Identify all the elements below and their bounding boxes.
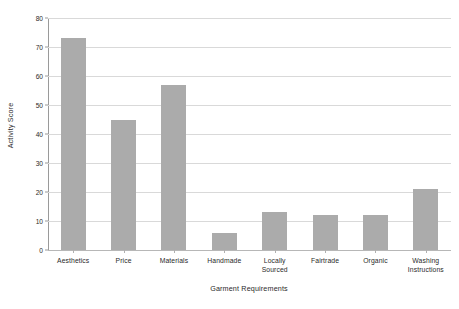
x-axis-tickmarks: [48, 250, 451, 254]
bar-chart-figure: Activity Score 01020304050607080 Aesthet…: [0, 0, 459, 309]
bar-fairtrade[interactable]: [313, 215, 338, 250]
x-tickmark-slot: [350, 250, 400, 254]
y-tick-label-50: 50: [36, 102, 43, 109]
x-tick-label-line: Instructions: [401, 265, 451, 274]
y-tick-label-20: 20: [36, 189, 43, 196]
x-tick-label-materials: Materials: [149, 256, 199, 274]
x-tick-label-line: Price: [116, 257, 132, 264]
x-tickmark-slot: [149, 250, 199, 254]
x-tickmark: [375, 250, 376, 253]
x-axis-tick-labels: AestheticsPriceMaterialsHandmadeLocallyS…: [48, 256, 451, 274]
bar-slot: [98, 18, 148, 250]
x-axis-title: Garment Requirements: [48, 284, 450, 293]
x-tick-label-line: Sourced: [250, 265, 300, 274]
x-tick-label-line: Fairtrade: [311, 257, 339, 264]
bar-washing-instructions[interactable]: [413, 189, 438, 250]
bar-aesthetics[interactable]: [61, 38, 86, 250]
y-axis-title-text: Activity Score: [7, 102, 16, 148]
bar-price[interactable]: [111, 120, 136, 251]
y-tick-label-60: 60: [36, 73, 43, 80]
x-tick-label-locally-sourced: LocallySourced: [250, 256, 300, 274]
x-tickmark-slot: [48, 250, 98, 254]
x-tick-label-organic: Organic: [350, 256, 400, 274]
x-tick-label-line: Locally: [264, 257, 286, 264]
bar-slot: [199, 18, 249, 250]
bar-slot: [401, 18, 451, 250]
y-tick-label-70: 70: [36, 44, 43, 51]
bar-handmade[interactable]: [212, 233, 237, 250]
x-tickmark: [325, 250, 326, 253]
y-axis-title: Activity Score: [0, 0, 22, 250]
x-tick-label-fairtrade: Fairtrade: [300, 256, 350, 274]
x-axis-title-text: Garment Requirements: [210, 284, 288, 293]
bar-slot: [48, 18, 98, 250]
x-tickmark: [224, 250, 225, 253]
bar-organic[interactable]: [363, 215, 388, 250]
x-tickmark: [73, 250, 74, 253]
x-tickmark-slot: [98, 250, 148, 254]
bar-slot: [149, 18, 199, 250]
x-tick-label-line: Materials: [160, 257, 188, 264]
x-tick-label-line: Washing: [412, 257, 439, 264]
x-tickmark: [275, 250, 276, 253]
y-tick-label-40: 40: [36, 131, 43, 138]
x-tickmark-slot: [401, 250, 451, 254]
x-tick-label-price: Price: [98, 256, 148, 274]
x-tickmark: [174, 250, 175, 253]
x-tick-label-line: Handmade: [207, 257, 241, 264]
y-tick-label-10: 10: [36, 218, 43, 225]
bar-slot: [250, 18, 300, 250]
y-tick-label-30: 30: [36, 160, 43, 167]
x-tick-label-line: Organic: [363, 257, 388, 264]
bar-slot: [350, 18, 400, 250]
bar-slot: [300, 18, 350, 250]
x-tick-label-handmade: Handmade: [199, 256, 249, 274]
x-tickmark-slot: [199, 250, 249, 254]
x-tickmark: [426, 250, 427, 253]
bar-materials[interactable]: [161, 85, 186, 250]
bar-locally-sourced[interactable]: [262, 212, 287, 250]
bars-group: [48, 18, 451, 250]
x-tick-label-aesthetics: Aesthetics: [48, 256, 98, 274]
x-tickmark-slot: [300, 250, 350, 254]
y-tick-label-0: 0: [39, 247, 43, 254]
x-tick-label-line: Aesthetics: [57, 257, 89, 264]
y-tick-label-80: 80: [36, 15, 43, 22]
x-tickmark-slot: [250, 250, 300, 254]
plot-area: 01020304050607080: [48, 18, 451, 250]
x-tickmark: [124, 250, 125, 253]
x-tick-label-washing-instructions: WashingInstructions: [401, 256, 451, 274]
